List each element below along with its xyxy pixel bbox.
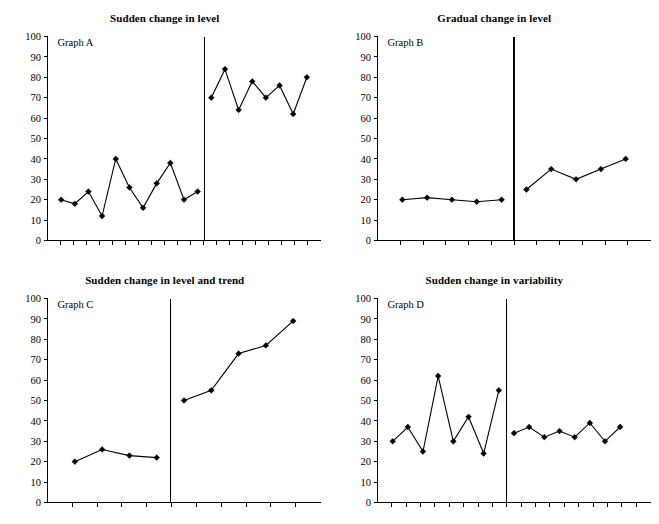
y-tick-label: 0 [365,497,370,508]
y-tick-label: 100 [25,293,41,304]
y-tick-label: 10 [31,215,42,226]
y-tick-label: 90 [31,52,42,63]
y-tick-label: 80 [360,72,371,83]
plot-area-b: 0102030405060708090100Graph B [330,0,659,262]
y-tick-label: 30 [360,174,371,185]
data-point-marker [99,213,105,219]
y-tick-label: 0 [365,235,370,246]
y-tick-label: 50 [31,133,42,144]
series-line-intervention [526,159,625,190]
data-point-marker [498,197,504,203]
chart-panel-b: Gradual change in level 0102030405060708… [330,0,659,262]
y-tick-label: 90 [31,314,42,325]
data-point-marker [113,156,119,162]
y-tick-label: 0 [36,235,41,246]
data-point-marker [435,373,441,379]
four-panel-chart-figure: Sudden change in level 01020304050607080… [0,0,659,524]
plot-area-d: 0102030405060708090100Graph D [330,262,659,524]
data-point-marker [473,199,479,205]
y-tick-label: 20 [360,456,371,467]
data-point-marker [236,107,242,113]
data-point-marker [399,197,405,203]
y-tick-label: 10 [360,215,371,226]
y-tick-label: 60 [31,375,42,386]
data-point-marker [167,160,173,166]
data-point-marker [450,438,456,444]
y-tick-label: 70 [360,92,371,103]
y-tick-label: 20 [31,456,42,467]
y-tick-label: 60 [360,375,371,386]
y-tick-label: 0 [36,497,41,508]
data-point-marker [541,434,547,440]
plot-area-c: 0102030405060708090100Graph C [0,262,330,524]
y-tick-label: 30 [31,436,42,447]
y-tick-label: 80 [360,334,371,345]
y-tick-label: 70 [31,92,42,103]
data-point-marker [622,156,628,162]
data-point-marker [420,449,426,455]
data-point-marker [127,185,133,191]
data-point-marker [526,424,532,430]
data-point-marker [140,205,146,211]
data-point-marker [58,197,64,203]
data-point-marker [99,447,105,453]
series-line-baseline [392,376,498,454]
data-point-marker [154,455,160,461]
y-tick-label: 20 [360,194,371,205]
data-point-marker [181,398,187,404]
data-point-marker [72,459,78,465]
series-line-intervention [211,69,307,114]
y-tick-label: 90 [360,52,371,63]
y-tick-label: 100 [355,293,371,304]
y-tick-label: 30 [360,436,371,447]
data-point-marker [195,189,201,195]
y-tick-label: 70 [360,354,371,365]
graph-inline-label: Graph C [58,299,94,310]
data-point-marker [222,66,228,72]
y-tick-label: 70 [31,354,42,365]
y-tick-label: 50 [360,395,371,406]
y-tick-label: 40 [360,154,371,165]
data-point-marker [573,176,579,182]
data-point-marker [154,180,160,186]
y-tick-label: 20 [31,194,42,205]
y-tick-label: 10 [360,477,371,488]
data-point-marker [495,387,501,393]
graph-inline-label: Graph A [58,37,94,48]
y-tick-label: 50 [360,133,371,144]
data-point-marker [208,95,214,101]
y-tick-label: 100 [25,31,41,42]
plot-area-a: 0102030405060708090100Graph A [0,0,330,262]
data-point-marker [181,197,187,203]
graph-inline-label: Graph D [387,299,424,310]
series-line-baseline [75,449,157,461]
data-point-marker [290,111,296,117]
y-tick-label: 90 [360,314,371,325]
y-tick-label: 30 [31,174,42,185]
y-tick-label: 60 [31,113,42,124]
graph-inline-label: Graph B [387,37,423,48]
chart-panel-d: Sudden change in variability 01020304050… [330,262,659,524]
y-tick-label: 60 [360,113,371,124]
chart-panel-a: Sudden change in level 01020304050607080… [0,0,330,262]
series-line-intervention [184,321,293,401]
data-point-marker [556,428,562,434]
y-tick-label: 40 [31,154,42,165]
data-point-marker [127,453,133,459]
y-tick-label: 80 [31,72,42,83]
data-point-marker [511,430,517,436]
y-tick-label: 80 [31,334,42,345]
y-tick-label: 50 [31,395,42,406]
data-point-marker [597,166,603,172]
y-tick-label: 10 [31,477,42,488]
data-point-marker [465,414,471,420]
data-point-marker [304,74,310,80]
y-tick-label: 100 [355,31,371,42]
data-point-marker [480,451,486,457]
y-tick-label: 40 [360,416,371,427]
y-tick-label: 40 [31,416,42,427]
chart-panel-c: Sudden change in level and trend 0102030… [0,262,330,524]
data-point-marker [424,195,430,201]
data-point-marker [449,197,455,203]
